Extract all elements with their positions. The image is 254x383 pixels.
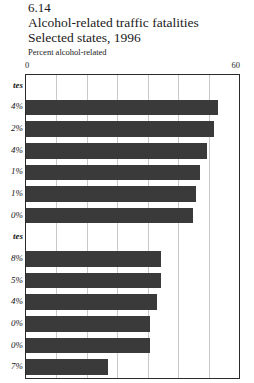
category-label: 4% — [11, 101, 23, 111]
category-label: 0% — [11, 318, 23, 328]
category-label: 8% — [11, 253, 23, 263]
bar-row — [26, 359, 239, 375]
bar — [26, 208, 193, 224]
x-axis-tick-max: 60 — [232, 60, 241, 70]
bar — [26, 100, 218, 116]
bar-row — [26, 273, 239, 289]
figure-header: 6.14 Alcohol-related traffic fatalities … — [28, 0, 254, 58]
bar — [26, 143, 207, 159]
category-label: 4% — [11, 145, 23, 155]
bar-row — [26, 316, 239, 332]
bar-row — [26, 143, 239, 159]
figure-panel: 6.14 Alcohol-related traffic fatalities … — [0, 0, 254, 383]
bar — [26, 338, 150, 354]
bar-row — [26, 338, 239, 354]
bar-rows — [26, 75, 239, 378]
bar — [26, 186, 196, 202]
bar — [26, 316, 150, 332]
category-label: 1% — [11, 188, 23, 198]
bar-row — [26, 208, 239, 224]
category-label: 7% — [11, 361, 23, 371]
figure-subtitle: Percent alcohol-related — [28, 46, 254, 58]
figure-number: 6.14 — [28, 0, 254, 15]
plot-area — [25, 74, 240, 379]
bar-row — [26, 251, 239, 267]
group-header-label: tes — [13, 80, 23, 90]
bar-row — [26, 294, 239, 310]
category-label: 4% — [11, 296, 23, 306]
bar — [26, 273, 161, 289]
bar — [26, 359, 108, 375]
figure-title-line1: Alcohol-related traffic fatalities — [28, 15, 254, 30]
bar-row — [26, 121, 239, 137]
category-label: 1% — [11, 166, 23, 176]
bar-row — [26, 100, 239, 116]
bar-row — [26, 165, 239, 181]
bar — [26, 165, 200, 181]
x-axis-tick-labels: 0 60 — [25, 60, 240, 72]
figure-title-line2: Selected states, 1996 — [28, 30, 254, 45]
bar-row — [26, 186, 239, 202]
bar — [26, 294, 157, 310]
bar — [26, 121, 214, 137]
category-label: 0% — [11, 210, 23, 220]
category-label: 5% — [11, 275, 23, 285]
x-axis-tick-min: 0 — [25, 60, 29, 70]
bar — [26, 251, 161, 267]
group-header-label: tes — [13, 231, 23, 241]
category-labels-column: tes4%2%4%1%1%0%tes8%5%4%0%0%7% — [0, 74, 25, 379]
category-label: 0% — [11, 340, 23, 350]
category-label: 2% — [11, 123, 23, 133]
